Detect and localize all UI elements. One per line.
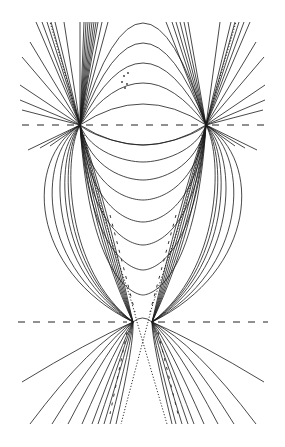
scatter-dot bbox=[127, 72, 129, 74]
fan-line bbox=[206, 57, 264, 125]
scatter-dot bbox=[126, 83, 128, 85]
u-curve bbox=[80, 125, 206, 162]
fan-line bbox=[55, 22, 80, 125]
dotted-bottom-left bbox=[121, 322, 148, 424]
lower-fan-left bbox=[104, 322, 133, 424]
fan-line bbox=[47, 22, 80, 125]
lower-fan-left bbox=[52, 322, 133, 424]
upper-focal-fans bbox=[20, 22, 265, 150]
fan-line bbox=[20, 85, 80, 125]
lower-focal-arc bbox=[133, 318, 152, 322]
scatter-dot bbox=[123, 75, 125, 77]
v-curve-right bbox=[152, 125, 206, 322]
scatter-dot bbox=[124, 87, 126, 89]
lower-arc bbox=[80, 125, 206, 145]
lower-fan-right bbox=[152, 322, 194, 424]
lower-fan-right bbox=[152, 322, 234, 424]
scatter-dot bbox=[121, 81, 123, 83]
fan-line bbox=[42, 22, 80, 125]
fan-line bbox=[206, 22, 239, 125]
outer-bulge-curves bbox=[44, 125, 242, 322]
dotted-caustic-lines bbox=[50, 22, 236, 424]
upper-arc bbox=[80, 104, 206, 125]
v-curve-left bbox=[80, 125, 133, 322]
lower-focal-fans bbox=[22, 322, 264, 424]
fan-line bbox=[22, 110, 80, 125]
fan-line bbox=[206, 110, 263, 125]
u-curve bbox=[80, 125, 206, 200]
lower-fan-left bbox=[82, 322, 133, 424]
diagram-canvas bbox=[0, 0, 285, 447]
fan-line bbox=[206, 125, 257, 150]
fan-line bbox=[28, 125, 80, 150]
dashed-bottom-left bbox=[110, 332, 127, 414]
bulge-left bbox=[60, 125, 133, 322]
fan-line bbox=[206, 22, 244, 125]
fan-line bbox=[30, 42, 80, 125]
u-curve bbox=[80, 125, 206, 180]
fan-line bbox=[206, 22, 231, 125]
lower-fan-right bbox=[152, 322, 264, 382]
lower-fan-left bbox=[30, 322, 133, 424]
upper-arcs bbox=[80, 23, 206, 145]
lower-fan-left bbox=[22, 322, 133, 382]
dotted-caustic-upper-left bbox=[50, 22, 80, 125]
lower-fan-right bbox=[152, 322, 176, 424]
lower-fan-right bbox=[152, 322, 256, 424]
field-line-diagram bbox=[0, 0, 285, 447]
dotted-caustic-upper-right bbox=[206, 22, 236, 125]
lower-fan-left bbox=[110, 322, 133, 424]
fan-line bbox=[206, 42, 256, 125]
lower-fan-right bbox=[152, 322, 182, 424]
u-curve bbox=[80, 125, 206, 222]
